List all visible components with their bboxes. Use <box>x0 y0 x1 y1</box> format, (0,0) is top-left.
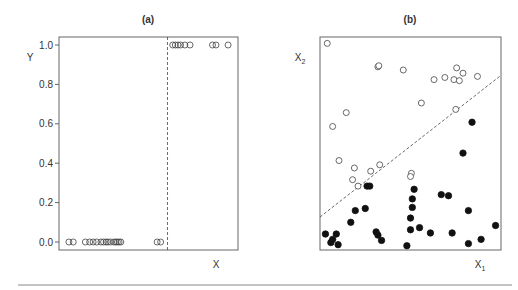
panel-a: (a) Y X 0.00.20.40.60.81.0 <box>27 14 238 270</box>
data-point <box>416 224 422 230</box>
data-point <box>449 230 455 236</box>
data-point <box>427 230 433 236</box>
panel-a-xlabel: X <box>213 259 220 270</box>
data-point <box>456 78 462 84</box>
data-point <box>348 219 354 225</box>
figure: (a) Y X 0.00.20.40.60.81.0 (b) X2 X1 <box>0 0 518 290</box>
data-point <box>367 183 373 189</box>
panel-b: (b) X2 X1 <box>295 14 501 272</box>
data-point <box>350 177 356 183</box>
data-point <box>492 222 498 228</box>
data-point <box>438 191 444 197</box>
data-point <box>352 207 358 213</box>
data-point <box>460 70 466 76</box>
panel-a-title: (a) <box>142 14 154 25</box>
data-point <box>362 205 368 211</box>
data-point <box>445 192 451 198</box>
data-point <box>70 239 76 245</box>
y-tick-label: 0.6 <box>39 118 53 129</box>
data-point <box>322 231 328 237</box>
data-point <box>335 241 341 247</box>
data-point <box>400 67 406 73</box>
y-tick-label: 0.4 <box>39 158 53 169</box>
data-point <box>351 165 357 171</box>
data-point <box>376 63 382 69</box>
data-point <box>210 42 216 48</box>
data-point <box>469 119 475 125</box>
panel-a-y-ticks: 0.00.20.40.60.81.0 <box>39 40 59 248</box>
data-point <box>343 110 349 116</box>
data-point <box>409 204 415 210</box>
data-point <box>454 65 460 71</box>
data-point <box>336 158 342 164</box>
data-point <box>478 236 484 242</box>
data-point <box>465 240 471 246</box>
data-point <box>407 215 413 221</box>
panel-a-ylabel: Y <box>27 52 34 63</box>
data-point <box>225 42 231 48</box>
data-point <box>213 42 219 48</box>
y-tick-label: 1.0 <box>39 40 53 51</box>
data-point <box>404 243 410 249</box>
data-point <box>324 40 330 46</box>
panel-b-decision-boundary <box>320 75 501 217</box>
data-point <box>377 162 383 168</box>
data-point <box>408 174 414 180</box>
panel-b-title: (b) <box>404 14 417 25</box>
data-point <box>87 239 93 245</box>
data-point <box>158 239 164 245</box>
data-point <box>411 186 417 192</box>
data-point <box>154 239 160 245</box>
data-point <box>474 73 480 79</box>
data-point <box>431 77 437 83</box>
data-point <box>451 77 457 83</box>
data-point <box>330 123 336 129</box>
data-point <box>442 74 448 80</box>
panel-a-frame <box>59 37 238 250</box>
data-point <box>409 196 415 202</box>
data-point <box>328 239 334 245</box>
data-point <box>90 239 96 245</box>
data-point <box>368 168 374 174</box>
data-point <box>407 227 413 233</box>
data-point <box>453 106 459 112</box>
data-point <box>378 237 384 243</box>
panel-b-points <box>322 40 499 249</box>
y-tick-label: 0.0 <box>39 237 53 248</box>
data-point <box>460 150 466 156</box>
panel-a-points <box>66 42 231 245</box>
panel-b-ylabel: X2 <box>295 52 306 65</box>
y-tick-label: 0.2 <box>39 197 53 208</box>
data-point <box>355 183 361 189</box>
y-tick-label: 0.8 <box>39 79 53 90</box>
data-point <box>465 207 471 213</box>
data-point <box>418 100 424 106</box>
panel-b-xlabel: X1 <box>475 259 486 272</box>
